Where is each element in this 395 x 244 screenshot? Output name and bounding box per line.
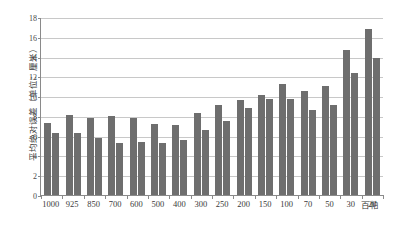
x-axis-tick-label: 200 — [233, 199, 254, 209]
bar — [351, 73, 358, 195]
bar-group — [148, 18, 169, 195]
x-axis-tick-label: 100 — [276, 199, 297, 209]
x-axis-tick-mark — [383, 195, 384, 199]
plot-area: 024681012141618 — [40, 18, 383, 196]
y-axis-tick-label: 6 — [33, 132, 37, 141]
bar — [373, 58, 380, 195]
x-axis-tick-label: 30 — [340, 199, 361, 209]
x-axis-tick-labels: 1000925850700600500400300250200150100705… — [40, 199, 383, 209]
x-axis-tick-label: 70 — [297, 199, 318, 209]
bar-group — [233, 18, 254, 195]
y-axis-tick-label: 14 — [29, 53, 37, 62]
y-axis-tick-label: 8 — [33, 112, 37, 121]
x-axis-tick-label: 50 — [319, 199, 340, 209]
bar — [301, 91, 308, 195]
bar — [287, 99, 294, 195]
bar — [87, 118, 94, 195]
bar-group — [255, 18, 276, 195]
y-axis-tick-label: 12 — [29, 73, 37, 82]
bar — [159, 143, 166, 195]
x-axis-tick-label: 850 — [83, 199, 104, 209]
bar — [130, 118, 137, 195]
bar-group — [62, 18, 83, 195]
bar-group — [340, 18, 361, 195]
y-axis-tick-label: 2 — [33, 172, 37, 181]
y-axis-tick-label: 0 — [33, 192, 37, 201]
y-axis-tick-label: 10 — [29, 93, 37, 102]
bar — [330, 105, 337, 195]
x-axis-unit-label: 百帕 — [361, 198, 379, 210]
bar — [322, 86, 329, 195]
bar — [52, 133, 59, 195]
bar-group — [127, 18, 148, 195]
bar — [194, 113, 201, 195]
bar — [151, 124, 158, 195]
bar — [245, 108, 252, 195]
bar — [215, 105, 222, 195]
x-axis-tick-label: 400 — [169, 199, 190, 209]
bar — [66, 115, 73, 195]
bar — [138, 142, 145, 195]
bar — [116, 143, 123, 195]
bar — [44, 123, 51, 195]
bar-group — [105, 18, 126, 195]
bar — [223, 121, 230, 195]
bar — [309, 110, 316, 195]
y-axis-tick-label: 4 — [33, 152, 37, 161]
y-axis-tick-label: 18 — [29, 14, 37, 23]
bar — [95, 138, 102, 195]
bar — [202, 130, 209, 195]
bar-group — [41, 18, 62, 195]
bar — [343, 50, 350, 195]
bar — [180, 140, 187, 195]
bar-group — [212, 18, 233, 195]
bar — [237, 100, 244, 195]
bar — [172, 125, 179, 195]
x-axis-tick-label: 500 — [147, 199, 168, 209]
bar — [258, 95, 265, 195]
bar-group — [362, 18, 383, 195]
bar-group — [276, 18, 297, 195]
x-axis-tick-label: 1000 — [40, 199, 61, 209]
y-axis-tick-label: 16 — [29, 33, 37, 42]
bar — [279, 84, 286, 195]
bar-group — [169, 18, 190, 195]
bar — [108, 116, 115, 195]
x-axis-tick-label: 700 — [104, 199, 125, 209]
x-axis-tick-label: 925 — [61, 199, 82, 209]
bar-group — [191, 18, 212, 195]
x-axis-tick-label: 600 — [126, 199, 147, 209]
x-axis-tick-label: 250 — [212, 199, 233, 209]
x-axis-tick-label: 150 — [254, 199, 275, 209]
bar-group — [298, 18, 319, 195]
bar-chart: 平均绝对误差（单位：厘米） 024681012141618 1000925850… — [0, 0, 395, 244]
bar — [266, 99, 273, 195]
bar-group — [84, 18, 105, 195]
bar-group — [319, 18, 340, 195]
x-axis-tick-label: 300 — [190, 199, 211, 209]
bar — [74, 133, 81, 195]
bar — [365, 29, 372, 195]
bar-series-container — [41, 18, 383, 195]
